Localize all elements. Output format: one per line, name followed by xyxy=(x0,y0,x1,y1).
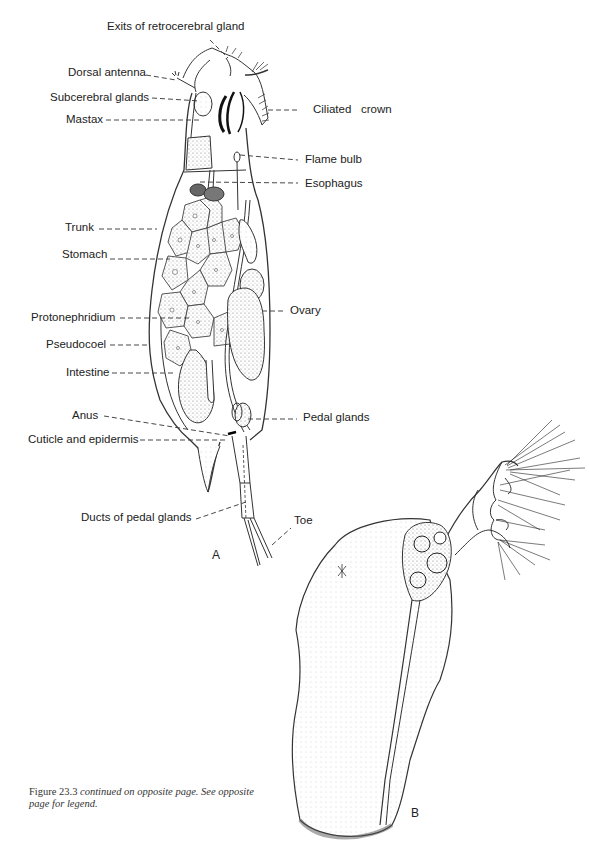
label-toe: Toe xyxy=(294,514,313,526)
label-ciliated-crown: Ciliated crown xyxy=(313,103,392,115)
label-ducts-of-pedal-glands: Ducts of pedal glands xyxy=(81,511,192,523)
label-anus: Anus xyxy=(72,409,98,421)
figure-number: Figure 23.3 xyxy=(29,786,77,797)
label-stomach: Stomach xyxy=(62,248,107,260)
label-subcerebral-glands: Subcerebral glands xyxy=(50,91,149,103)
label-esophagus: Esophagus xyxy=(305,177,363,189)
label-protonephridium: Protonephridium xyxy=(31,311,115,323)
label-trunk: Trunk xyxy=(65,221,94,233)
panel-label-b: B xyxy=(411,806,419,820)
label-intestine: Intestine xyxy=(66,366,109,378)
panel-a-drawing xyxy=(149,46,272,566)
label-exits-retrocerebral-gland: Exits of retrocerebral gland xyxy=(107,20,244,32)
panel-b-drawing xyxy=(293,420,585,838)
panel-label-a: A xyxy=(212,548,220,562)
label-pseudocoel: Pseudocoel xyxy=(46,338,106,350)
label-cuticle-and-epidermis: Cuticle and epidermis xyxy=(28,433,139,445)
label-pedal-glands: Pedal glands xyxy=(303,411,370,423)
figure-caption: Figure 23.3 continued on opposite page. … xyxy=(29,786,259,810)
label-ovary: Ovary xyxy=(290,304,321,316)
label-flame-bulb: Flame bulb xyxy=(305,153,362,165)
rotifer-illustration xyxy=(0,0,589,849)
label-mastax: Mastax xyxy=(66,113,103,125)
label-dorsal-antenna: Dorsal antenna xyxy=(68,66,146,78)
